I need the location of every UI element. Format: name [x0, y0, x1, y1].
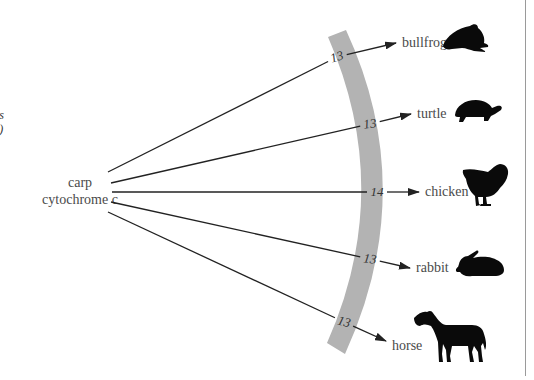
- horse-icon: [414, 311, 486, 362]
- connector-line: [111, 202, 360, 257]
- frog-icon: [443, 24, 488, 52]
- rabbit-icon: [456, 251, 504, 277]
- species-label: horse: [392, 338, 422, 353]
- comparison-row-rabbit: 13rabbit: [111, 202, 449, 275]
- arrow: [380, 114, 411, 122]
- source-label-line-2: cytochrome c: [42, 192, 118, 207]
- difference-count: 13: [362, 115, 377, 132]
- turtle-icon: [455, 100, 502, 122]
- species-label: chicken: [425, 184, 469, 199]
- connector-line: [108, 61, 328, 172]
- connector-line: [111, 126, 360, 183]
- comparison-row-chicken: 14chicken: [112, 184, 469, 199]
- cytochrome-comparison-diagram: carp cytochrome c 13bullfrog13turtle14ch…: [0, 0, 534, 380]
- source-label-line-1: carp: [68, 175, 92, 190]
- species-label: rabbit: [416, 260, 449, 275]
- arrow: [380, 261, 410, 268]
- arrow: [353, 326, 386, 341]
- species-label: turtle: [417, 106, 447, 121]
- chicken-icon: [463, 164, 508, 206]
- difference-count: 13: [363, 250, 378, 267]
- comparison-row-bullfrog: 13bullfrog: [108, 35, 447, 172]
- species-label: bullfrog: [402, 35, 447, 50]
- connector-line: [108, 212, 335, 318]
- difference-count: 14: [371, 184, 385, 199]
